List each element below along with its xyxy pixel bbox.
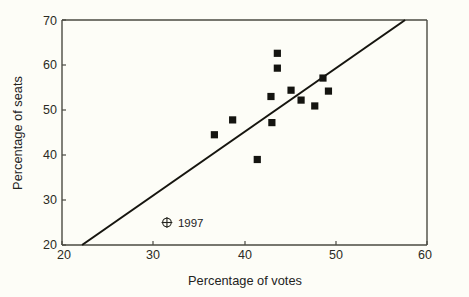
y-tick-label-20: 20: [43, 238, 57, 252]
regression-trend-line: [82, 20, 405, 245]
data-point-marker: [211, 131, 218, 138]
x-tick-label-50: 50: [329, 248, 343, 262]
data-point-marker: [319, 74, 326, 81]
y-tick-label-70: 70: [43, 14, 57, 28]
x-tick-label-30: 30: [146, 248, 160, 262]
x-tick-label-60: 60: [418, 248, 432, 262]
data-point-marker: [311, 102, 318, 109]
scatter-markers-group: [211, 50, 332, 163]
y-axis-title: Percentage of seats: [10, 76, 25, 190]
x-axis-title: Percentage of votes: [188, 273, 302, 288]
data-point-marker: [254, 156, 261, 163]
annotation-label-1997: 1997: [178, 217, 204, 229]
x-axis-tick-labels: 20 30 40 50 60: [57, 248, 432, 262]
scatter-plot-figure: 20 30 40 50 60 70 20 30 40 50 60: [0, 0, 469, 297]
data-point-marker: [297, 97, 304, 104]
y-axis-tick-labels: 20 30 40 50 60 70: [43, 14, 57, 252]
y-tick-label-30: 30: [43, 193, 57, 207]
data-point-marker: [267, 93, 274, 100]
x-tick-label-40: 40: [238, 248, 252, 262]
plot-canvas: 20 30 40 50 60 70 20 30 40 50 60: [0, 0, 469, 297]
y-tick-label-50: 50: [43, 103, 57, 117]
y-tick-label-40: 40: [43, 148, 57, 162]
data-point-marker: [274, 50, 281, 57]
data-point-marker: [268, 119, 275, 126]
y-tick-label-60: 60: [43, 58, 57, 72]
data-point-marker: [287, 87, 294, 94]
data-point-marker: [325, 88, 332, 95]
annotation-1997: 1997: [162, 217, 204, 229]
x-tick-label-20: 20: [57, 248, 71, 262]
data-point-marker: [274, 65, 281, 72]
data-point-marker: [229, 116, 236, 123]
circle-plus-icon: [162, 217, 173, 228]
